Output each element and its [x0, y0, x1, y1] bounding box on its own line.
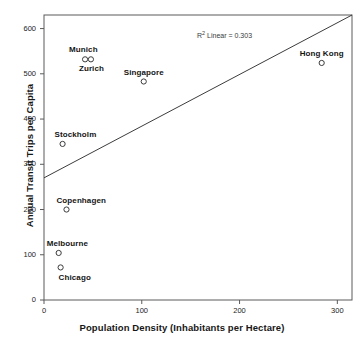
x-tick-label: 300: [322, 306, 352, 315]
y-tick-label: 0: [10, 295, 36, 304]
x-tick-label: 100: [127, 306, 157, 315]
x-tick-label: 200: [225, 306, 255, 315]
data-point-label: Singapore: [124, 68, 164, 77]
data-point-label: Chicago: [59, 273, 91, 282]
data-point-marker: [88, 57, 93, 62]
y-tick-label: 400: [10, 114, 36, 123]
y-tick-label: 500: [10, 69, 36, 78]
r-squared-suffix: Linear = 0.303: [205, 32, 252, 39]
data-point-marker: [64, 207, 69, 212]
data-point-label: Melbourne: [47, 239, 88, 248]
data-point-label: Copenhagen: [56, 196, 105, 205]
y-tick-label: 300: [10, 159, 36, 168]
scatter-plot-figure: Annual Transit Trips per Capita Populati…: [0, 0, 364, 346]
data-point-markers: [56, 57, 324, 270]
cut-off-caption-strip: [0, 336, 364, 346]
linear-fit-line: [44, 15, 352, 178]
x-axis-title: Population Density (Inhabitants per Hect…: [0, 322, 364, 333]
data-point-marker: [60, 141, 65, 146]
x-axis-ticks: [44, 300, 337, 304]
x-tick-label: 0: [29, 306, 59, 315]
data-point-label: Munich: [69, 45, 98, 54]
y-tick-label: 600: [10, 24, 36, 33]
data-point-marker: [319, 60, 324, 65]
data-point-marker: [58, 265, 63, 270]
data-point-label: Stockholm: [55, 130, 97, 139]
data-point-marker: [56, 250, 61, 255]
y-tick-label: 200: [10, 205, 36, 214]
data-point-label: Zurich: [79, 64, 104, 73]
data-point-marker: [141, 79, 146, 84]
data-point-label: Hong Kong: [300, 49, 344, 58]
y-axis-ticks: [40, 29, 44, 300]
r-squared-annotation: R2 Linear = 0.303: [197, 30, 252, 39]
data-point-marker: [82, 57, 87, 62]
y-tick-label: 100: [10, 250, 36, 259]
